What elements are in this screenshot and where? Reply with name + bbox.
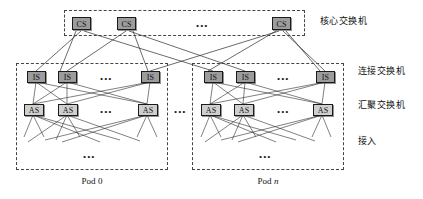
pod-0-as-node[interactable]: AS bbox=[58, 104, 78, 116]
pod-n-is-node[interactable]: IS bbox=[204, 71, 223, 83]
tier-label-aggregation: 汇聚交换机 bbox=[358, 100, 405, 111]
core-switch-group bbox=[64, 10, 305, 36]
pod-0-is-node[interactable]: IS bbox=[141, 71, 160, 83]
pod-n-access-ellipsis: ••• bbox=[259, 153, 271, 162]
pod-0-caption-prefix: Pod bbox=[82, 176, 98, 186]
pod-0-is-ellipsis: ••• bbox=[100, 75, 112, 84]
pod-0-caption: Pod 0 bbox=[16, 176, 168, 187]
core-switch-node[interactable]: CS bbox=[117, 17, 136, 30]
pod-n-as-node[interactable]: AS bbox=[313, 104, 333, 116]
pod-0-access-ellipsis: ••• bbox=[83, 153, 95, 162]
pod-n-caption-prefix: Pod bbox=[258, 176, 274, 186]
pod-n-is-node[interactable]: IS bbox=[316, 71, 335, 83]
pod-n-as-node[interactable]: AS bbox=[201, 104, 221, 116]
pod-0-is-node[interactable]: IS bbox=[27, 71, 46, 83]
pod-n-is-ellipsis: ••• bbox=[277, 75, 289, 84]
pod-0-as-node[interactable]: AS bbox=[138, 104, 158, 116]
tier-label-access: 接入 bbox=[358, 136, 377, 147]
diagram-canvas: CS CS CS ••• IS IS IS ••• AS AS AS ••• •… bbox=[0, 0, 423, 199]
pod-0-as-node[interactable]: AS bbox=[24, 104, 44, 116]
pod-n-caption: Pod n bbox=[192, 176, 344, 187]
core-switch-node[interactable]: CS bbox=[72, 17, 91, 30]
pod-0-as-ellipsis: ••• bbox=[100, 108, 112, 117]
core-ellipsis: ••• bbox=[196, 22, 208, 31]
pod-n-as-node[interactable]: AS bbox=[234, 104, 254, 116]
pod-0-is-node[interactable]: IS bbox=[58, 71, 77, 83]
pod-0-caption-index: 0 bbox=[98, 176, 103, 186]
pod-n-as-ellipsis: ••• bbox=[277, 108, 289, 117]
tier-label-connection: 连接交换机 bbox=[358, 66, 405, 77]
between-pods-ellipsis: ••• bbox=[174, 108, 186, 117]
tier-label-core: 核心交换机 bbox=[320, 16, 367, 27]
pod-n-caption-index: n bbox=[274, 176, 279, 186]
pod-n-is-node[interactable]: IS bbox=[236, 71, 255, 83]
core-switch-node[interactable]: CS bbox=[272, 17, 291, 30]
